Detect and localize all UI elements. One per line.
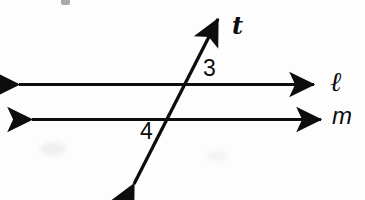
diagram-canvas [0, 0, 365, 200]
line-m-label: m [332, 104, 352, 128]
line-l-label: ℓ [330, 68, 341, 95]
line-t-transversal [134, 19, 218, 184]
angle-label-3: 3 [203, 57, 216, 80]
line-t-label: t [232, 14, 243, 38]
geometry-diagram: ℓ m t 3 4 [0, 0, 365, 200]
angle-label-4: 4 [140, 120, 153, 143]
